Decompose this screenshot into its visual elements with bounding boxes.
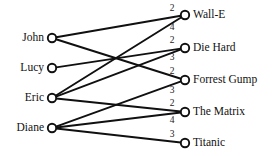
graph-node-diehard[interactable]	[181, 44, 189, 52]
graph-node-diane[interactable]	[48, 124, 56, 132]
node-label-matrix: The Matrix	[193, 106, 245, 118]
node-label-eric: Eric	[25, 92, 44, 104]
graph-node-eric[interactable]	[48, 94, 56, 102]
edges-group	[56, 16, 182, 143]
edge-weight-eric-diehard: 3	[170, 53, 175, 63]
graph-edge	[56, 16, 181, 38]
graph-node-matrix[interactable]	[181, 108, 189, 116]
graph-node-titanic[interactable]	[181, 139, 189, 147]
graph-edge	[56, 98, 181, 111]
node-label-lucy: Lucy	[20, 62, 44, 74]
graph-node-walle[interactable]	[181, 11, 189, 19]
node-label-diehard: Die Hard	[193, 42, 235, 54]
graph-edge	[56, 49, 181, 68]
bipartite-graph-diagram: JohnLucyEricDiane Wall-EDie HardForrest …	[0, 0, 280, 156]
node-label-forrest: Forrest Gump	[193, 74, 257, 86]
edge-weight-diane-forrest: 3	[170, 86, 175, 96]
edge-weight-diane-titanic: 3	[170, 130, 175, 140]
edge-weight-john-forrest: 2	[170, 67, 175, 77]
node-label-titanic: Titanic	[193, 137, 225, 149]
edge-weight-diane-matrix: 4	[170, 116, 175, 126]
node-label-diane: Diane	[17, 122, 44, 134]
graph-node-john[interactable]	[48, 34, 56, 42]
edge-weight-lucy-diehard: 2	[170, 36, 175, 46]
node-label-john: John	[22, 32, 44, 44]
graph-node-lucy[interactable]	[48, 64, 56, 72]
edge-weight-eric-walle: 4	[170, 23, 175, 33]
node-label-walle: Wall-E	[193, 9, 225, 21]
graph-node-forrest[interactable]	[181, 76, 189, 84]
edge-weight-eric-matrix: 2	[170, 99, 175, 109]
graph-edge	[56, 128, 181, 142]
edge-weight-john-walle: 2	[170, 4, 175, 14]
